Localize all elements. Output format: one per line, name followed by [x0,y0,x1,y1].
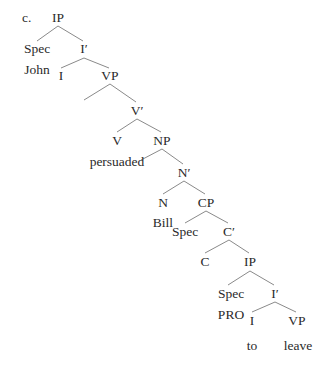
tree-node-i2: I [250,314,255,328]
tree-node-c: C [200,255,209,269]
tree-branch [185,211,206,223]
tree-node-vbar: V′ [131,104,144,118]
tree-branch [184,181,205,194]
tree-node-persuaded: persuaded [90,155,145,169]
tree-node-np: NP [153,134,170,148]
tree-branch [252,302,275,312]
tree-branch [250,271,274,285]
tree-node-ip1: IP [52,11,64,25]
tree-branch [228,271,250,285]
syntax-tree-diagram: c. IPSpecJohnI′IVPV′VpersuadedNPN′NBillC… [0,0,326,365]
tree-node-john: John [24,63,50,77]
tree-node-spec2: Spec [172,225,198,239]
tree-node-vp1: VP [101,69,118,83]
tree-branch [61,58,84,68]
tree-node-nbar: N′ [178,166,191,180]
tree-node-n: N [158,196,168,210]
tree-node-vp2: VP [288,314,305,328]
tree-node-ibar1: I′ [80,42,87,56]
tree-node-v: V [112,134,122,148]
tree-node-spec3: Spec [218,287,244,301]
tree-node-i1: I [59,69,64,83]
tree-branch [206,211,228,223]
tree-branch [205,240,229,253]
tree-node-to: to [247,339,258,353]
tree-branch [110,84,136,102]
tree-branch [229,240,249,253]
tree-node-cbar: C′ [223,225,235,239]
tree-node-ip2: IP [244,255,256,269]
tree-branch [58,26,83,41]
tree-branch [84,58,109,68]
tree-node-cp: CP [198,196,215,210]
tree-branch [162,149,183,164]
tree-node-ibar2: I′ [271,287,278,301]
tree-branch [137,119,161,132]
tree-node-pro: PRO [218,308,244,322]
tree-node-spec1: Spec [24,42,50,56]
tree-node-leave: leave [284,339,312,353]
tree-branch [275,302,296,312]
tree-node-bill: Bill [153,216,173,230]
tree-branch [163,181,184,194]
tree-branch [37,26,58,41]
example-label: c. [22,11,31,25]
tree-branch [117,119,137,132]
tree-branch [84,84,110,100]
